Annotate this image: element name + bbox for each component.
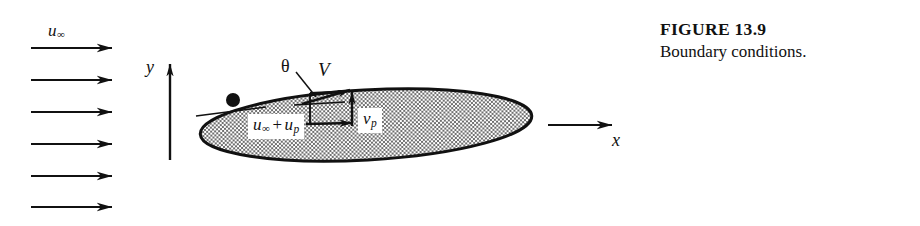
horizontal-component-label: u∞+up	[248, 114, 304, 139]
resultant-velocity-label: V	[318, 60, 330, 79]
theta-angle-label: θ	[281, 57, 290, 75]
figure-caption-title: FIGURE 13.9	[660, 18, 910, 40]
figure-caption-text: Boundary conditions.	[660, 41, 910, 63]
vertical-component-label: vp	[358, 108, 382, 133]
figure-container: u∞ y x θ V u∞+up vp FIGURE 13.9 Boundary…	[0, 0, 920, 226]
y-axis-label: y	[146, 58, 154, 76]
figure-caption: FIGURE 13.9 Boundary conditions.	[660, 18, 910, 63]
horizontal-component-arrow	[306, 123, 352, 124]
theta-leader-line	[296, 72, 316, 97]
x-axis-label: x	[612, 131, 620, 149]
freestream-velocity-label: u∞	[48, 22, 65, 40]
surface-point-dot	[226, 93, 240, 107]
freestream-arrow-group	[31, 48, 112, 207]
